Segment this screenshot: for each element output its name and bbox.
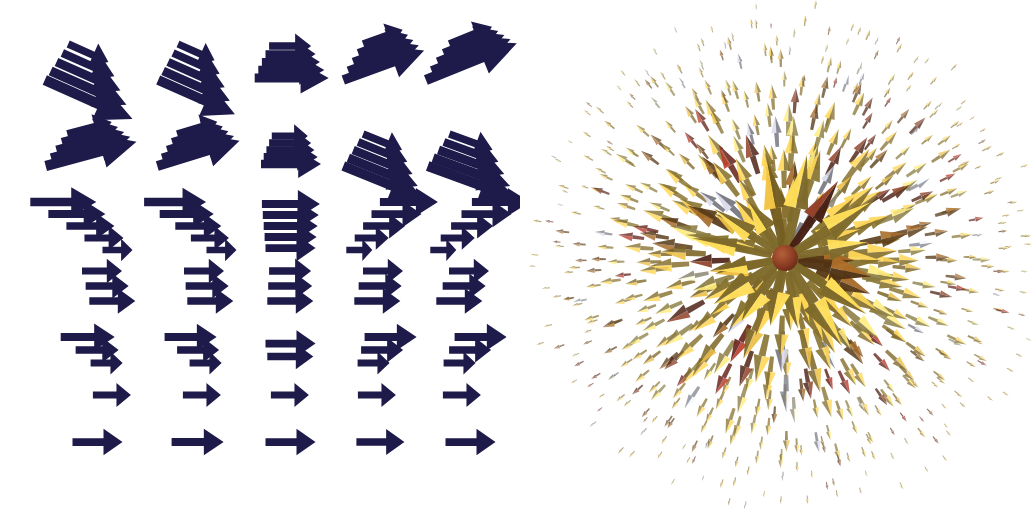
cone-vector-glyph (981, 264, 995, 269)
cone-vector-glyph (956, 104, 963, 111)
cone-shaft (710, 435, 714, 442)
vector-arrow-glyph (355, 226, 389, 249)
cone-shaft (842, 84, 847, 92)
cone-shaft (959, 402, 962, 405)
cone-shaft (799, 378, 804, 389)
cone-vector-glyph (883, 86, 892, 98)
cone-shaft (770, 56, 773, 63)
cone-shaft (711, 29, 713, 32)
cone-head-shadow (780, 500, 781, 504)
cone-vector-glyph (960, 99, 967, 105)
cone-vector-glyph (586, 267, 601, 273)
cone-vector-glyph (726, 36, 734, 50)
cone-head-shadow (575, 258, 581, 260)
cone-shaft (945, 274, 955, 278)
cone-shaft (698, 47, 701, 51)
cone-vector-glyph (590, 372, 601, 381)
right-vector-field-canvas (520, 0, 1033, 509)
cone-vector-glyph (966, 360, 977, 368)
cone-vector-glyph (594, 229, 613, 238)
cone-shaft (771, 26, 772, 29)
cone-shaft (764, 50, 766, 56)
cone-head-shadow (783, 440, 787, 451)
cone-shaft (793, 33, 794, 37)
cone-vector-glyph (743, 501, 747, 509)
cone-vector-glyph (633, 78, 641, 87)
arrow-cluster (356, 429, 404, 455)
cone-head-lit (786, 440, 790, 451)
cone-shaft (645, 417, 648, 420)
cone-shaft (906, 169, 917, 178)
cone-shaft (563, 231, 570, 234)
cone-vector-glyph (556, 203, 563, 207)
cone-shaft (937, 140, 944, 146)
cone-head-shadow (636, 258, 650, 263)
cone-head-lit (530, 255, 534, 256)
cone-shaft (727, 88, 732, 96)
cone-vector-glyph (636, 302, 658, 316)
cone-vector-glyph (594, 166, 606, 175)
cone-shaft (778, 315, 785, 334)
vector-arrow-glyph (73, 429, 123, 455)
arrow-cluster (38, 32, 140, 135)
cone-vector-glyph (775, 35, 779, 46)
cone-vector-glyph (1026, 338, 1032, 342)
cone-shaft (1026, 338, 1029, 340)
figure-root (0, 0, 1033, 509)
cone-vector-glyph (753, 398, 762, 417)
cone-shaft (670, 126, 676, 133)
cone-shaft (851, 421, 855, 427)
cone-vector-glyph (926, 408, 935, 417)
cone-shaft (826, 143, 835, 156)
cone-shaft (588, 330, 592, 332)
cone-shaft (846, 453, 849, 458)
cone-vector-glyph (978, 138, 987, 145)
cone-vector-glyph (529, 265, 535, 267)
cone-vector-glyph (746, 466, 751, 476)
arrow-cluster (338, 18, 430, 96)
cone-vector-glyph (811, 399, 821, 419)
cone-shaft (1007, 202, 1010, 204)
cone-vector-glyph (1020, 163, 1028, 168)
cone-head-lit (786, 363, 791, 379)
cone-shaft (980, 130, 983, 133)
cone-shaft (861, 447, 864, 452)
cone-shaft (967, 335, 975, 340)
arrow-cluster (61, 323, 123, 374)
cone-shaft (702, 42, 705, 46)
cone-shaft (686, 161, 695, 170)
arrow-cluster (354, 259, 403, 314)
cone-shaft (767, 116, 772, 127)
cone-head-shadow (1024, 271, 1028, 272)
cone-shaft (755, 24, 757, 29)
cone-shaft (884, 102, 888, 107)
cone-head-lit (1008, 245, 1012, 247)
cone-shaft (828, 31, 830, 35)
cone-shaft (592, 315, 599, 319)
arrow-cluster (444, 324, 507, 375)
cone-vector-glyph (749, 18, 754, 28)
cone-shaft (735, 130, 741, 140)
cone-shaft (703, 476, 705, 479)
vector-arrow-glyph (449, 259, 489, 283)
cone-vector-glyph (754, 450, 760, 464)
cone-shaft (846, 41, 848, 44)
cone-vector-glyph (819, 75, 831, 98)
cone-shaft (675, 30, 677, 33)
cone-shaft (944, 423, 946, 425)
cone-shaft (756, 7, 757, 10)
cone-shaft (709, 333, 725, 351)
cone-shaft (859, 487, 861, 490)
cone-vector-glyph (703, 406, 716, 424)
cone-vector-glyph (934, 204, 963, 220)
cone-vector-glyph (564, 270, 573, 274)
cone-shaft (623, 73, 626, 76)
cone-vector-glyph (631, 348, 649, 363)
cone-shaft (755, 125, 760, 135)
cone-vector-glyph (533, 219, 542, 223)
cone-vector-glyph (753, 81, 763, 102)
cone-shaft (626, 205, 635, 210)
cone-vector-glyph (720, 447, 727, 460)
cone-shaft (587, 112, 591, 115)
cone-shaft (964, 256, 970, 258)
